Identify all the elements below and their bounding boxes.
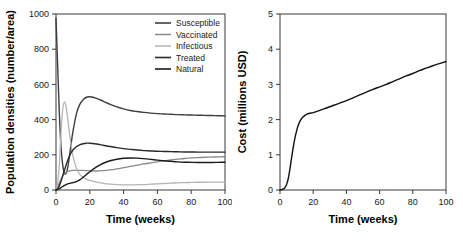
y-tick-label: 5 <box>268 9 273 19</box>
y-tick-label: 0 <box>268 185 273 195</box>
legend-label-natural: Natural <box>176 64 204 74</box>
panel-cost: 020406080100012345Time (weeks)Cost (mill… <box>232 0 463 242</box>
legend-label-vaccinated: Vaccinated <box>176 30 218 40</box>
y-tick-label: 800 <box>34 44 49 54</box>
x-tick-label: 20 <box>85 197 95 207</box>
legend-label-treated: Treated <box>176 53 205 63</box>
y-tick-label: 1000 <box>29 9 49 19</box>
y-tick-label: 600 <box>34 80 49 90</box>
x-tick-label: 60 <box>375 197 385 207</box>
x-tick-label: 0 <box>53 197 58 207</box>
y-tick-label: 4 <box>268 44 273 54</box>
x-axis-title: Time (weeks) <box>329 213 398 225</box>
series-line-treated <box>56 143 225 190</box>
y-tick-label: 1 <box>268 150 273 160</box>
x-tick-label: 80 <box>408 197 418 207</box>
panel-population-densities: 02040608010002004006008001000Time (weeks… <box>0 0 232 242</box>
y-tick-label: 400 <box>34 115 49 125</box>
y-axis-title: Cost (millions USD) <box>236 50 248 153</box>
x-tick-label: 100 <box>438 197 453 207</box>
x-tick-label: 20 <box>308 197 318 207</box>
cost-plot: 020406080100012345Time (weeks)Cost (mill… <box>232 0 463 242</box>
legend-label-infectious: Infectious <box>176 41 212 51</box>
y-axis-title: Population densities (number/area) <box>4 10 16 194</box>
x-tick-label: 80 <box>186 197 196 207</box>
plot-frame <box>280 14 446 190</box>
x-tick-label: 100 <box>217 197 232 207</box>
series-line-cost <box>280 62 446 190</box>
population-densities-plot: 02040608010002004006008001000Time (weeks… <box>0 0 232 242</box>
x-axis-title: Time (weeks) <box>106 213 175 225</box>
legend-label-susceptible: Susceptible <box>176 18 220 28</box>
y-tick-label: 0 <box>44 185 49 195</box>
y-tick-label: 2 <box>268 115 273 125</box>
x-tick-label: 40 <box>119 197 129 207</box>
x-tick-label: 0 <box>277 197 282 207</box>
y-tick-label: 3 <box>268 80 273 90</box>
x-tick-label: 60 <box>152 197 162 207</box>
x-tick-label: 40 <box>341 197 351 207</box>
y-tick-label: 200 <box>34 150 49 160</box>
figure-container: 02040608010002004006008001000Time (weeks… <box>0 0 463 242</box>
